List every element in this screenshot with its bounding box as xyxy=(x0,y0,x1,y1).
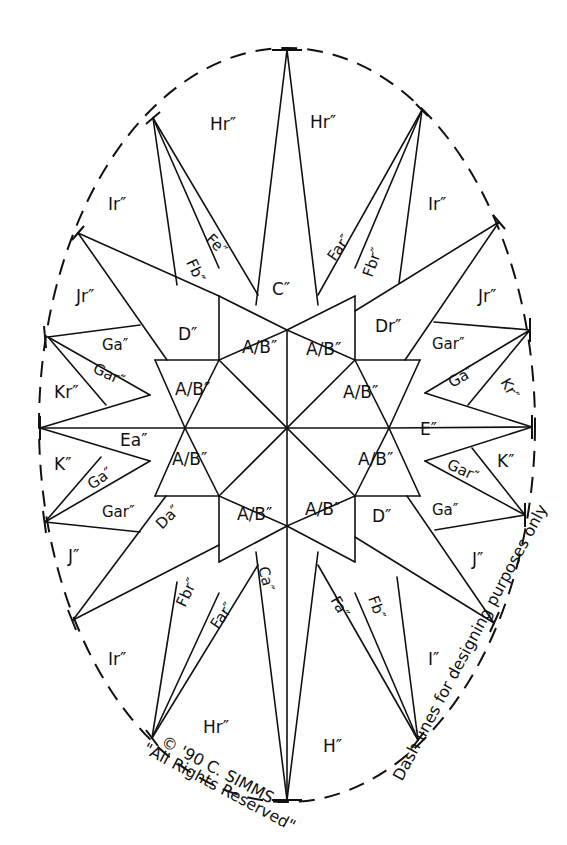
label-gar-left-top: Gar″ xyxy=(90,359,127,389)
label-ab-7: A/B″ xyxy=(237,504,272,524)
label-ir-left: Ir″ xyxy=(108,194,126,214)
label-gar-left-bottom: Gar″ xyxy=(102,503,135,521)
label-hr-bottom: Hr″ xyxy=(203,717,229,737)
label-dr-top-right: Dr″ xyxy=(375,316,401,336)
label-fb-bottom: Fb″ xyxy=(364,593,389,622)
label-d-bottom-right: D″ xyxy=(372,506,391,526)
label-gar-right-top: Gar″ xyxy=(432,335,465,353)
main-points xyxy=(40,50,532,800)
label-ab-5: A/B″ xyxy=(172,449,207,469)
label-k-right: K″ xyxy=(497,451,515,471)
label-ab-6: A/B″ xyxy=(358,449,393,469)
label-ga-right-top: Ga″ xyxy=(445,362,477,391)
label-ga-right-bottom: Ga″ xyxy=(432,501,459,519)
label-i-bottom-right: I″ xyxy=(428,649,439,669)
quilt-pattern-diagram: Hr″ Hr″ Ir″ Ir″ Fe″ Fb″ C″ Far″ Fbr″ Jr″… xyxy=(0,0,567,845)
label-ir-bottom-left: Ir″ xyxy=(108,649,126,669)
label-c-top: C″ xyxy=(272,279,290,299)
label-ga-left-bottom: Ga″ xyxy=(84,463,116,493)
label-e-right: E″ xyxy=(420,419,437,439)
label-fbr-bottom: Fbr″ xyxy=(172,575,201,610)
label-ab-4: A/B″ xyxy=(343,382,378,402)
label-ir-right: Ir″ xyxy=(428,194,446,214)
label-d-top-left: D″ xyxy=(178,324,197,344)
label-j-right: J″ xyxy=(471,549,483,569)
label-da-bottom-left: Da″ xyxy=(152,501,184,533)
label-hr-top-left: Hr″ xyxy=(210,114,236,134)
annotations: © '90 C. SIMMS "All Rights Reserved" Das… xyxy=(140,501,551,835)
label-kr-right: Kr″ xyxy=(497,375,524,403)
label-far-bottom: Far″ xyxy=(207,599,238,633)
label-ab-8: A/B″ xyxy=(305,499,340,519)
vertex-ticks xyxy=(40,50,532,800)
rights-reserved-text: "All Rights Reserved" xyxy=(140,739,299,835)
label-jr-left: Jr″ xyxy=(75,286,94,306)
label-hr-top-right: Hr″ xyxy=(310,112,336,132)
label-j-left: J″ xyxy=(67,546,79,566)
label-far-top: Far″ xyxy=(324,231,355,265)
label-ga-left-top: Ga″ xyxy=(102,336,129,354)
label-ab-1: A/B″ xyxy=(242,337,277,357)
label-ea-left: Ea″ xyxy=(120,430,148,450)
label-kr-left: Kr″ xyxy=(54,382,79,402)
label-ca-bottom: Ca″ xyxy=(254,564,278,593)
label-ab-3: A/B″ xyxy=(175,379,210,399)
label-h-bottom: H″ xyxy=(323,736,342,756)
label-fe: Fe″ xyxy=(202,230,231,259)
dash-lines-note: Dash lines for designing purposes only xyxy=(389,501,551,784)
label-jr-right: Jr″ xyxy=(477,286,496,306)
label-k-left: K″ xyxy=(54,454,72,474)
label-fa-bottom: Fa″ xyxy=(327,593,354,621)
label-ab-2: A/B″ xyxy=(306,339,341,359)
